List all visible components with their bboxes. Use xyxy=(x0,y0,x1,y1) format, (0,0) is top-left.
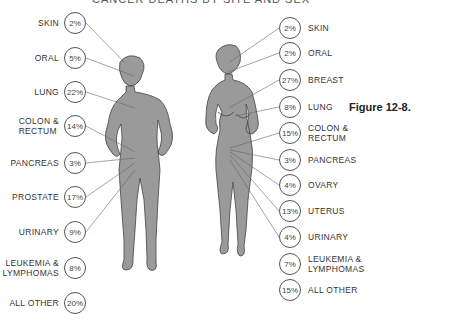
female-lung-label: LUNG xyxy=(308,102,333,112)
male-pancreas-label: PANCREAS xyxy=(10,158,59,168)
female-leukemia-pct: 7% xyxy=(279,253,301,275)
male-colon-pct: 14% xyxy=(64,115,86,137)
female-pancreas-pct: 3% xyxy=(279,149,301,171)
male-lung-pct: 22% xyxy=(64,81,86,103)
figure-caption: Figure 12-8. xyxy=(349,101,411,113)
female-other-label: ALL OTHER xyxy=(308,285,358,295)
male-oral-label: ORAL xyxy=(35,53,59,63)
male-prostate-label: PROSTATE xyxy=(12,192,59,202)
female-lung-pct: 8% xyxy=(279,96,301,118)
female-uterus-label: UTERUS xyxy=(308,206,345,216)
female-pancreas-label: PANCREAS xyxy=(308,155,357,165)
male-oral-pct: 5% xyxy=(64,47,86,69)
female-breast-label: BREAST xyxy=(308,75,344,85)
female-urinary-label: URINARY xyxy=(308,232,348,242)
male-colon-label: COLON & RECTUM xyxy=(19,116,59,136)
male-leukemia-label: LEUKEMIA & LYMPHOMAS xyxy=(3,258,59,278)
male-urinary-pct: 9% xyxy=(64,221,86,243)
female-oral-label: ORAL xyxy=(308,48,332,58)
female-uterus-pct: 13% xyxy=(279,200,301,222)
male-skin-label: SKIN xyxy=(38,18,59,28)
male-pancreas-pct: 3% xyxy=(64,152,86,174)
female-ovary-pct: 4% xyxy=(279,174,301,196)
male-urinary-label: URINARY xyxy=(19,227,59,237)
female-colon-pct: 15% xyxy=(279,122,301,144)
female-oral-pct: 2% xyxy=(279,42,301,64)
female-urinary-pct: 4% xyxy=(279,226,301,248)
female-ovary-label: OVARY xyxy=(308,180,338,190)
male-leukemia-pct: 8% xyxy=(64,257,86,279)
female-leukemia-label: LEUKEMIA & LYMPHOMAS xyxy=(308,254,364,274)
male-prostate-pct: 17% xyxy=(64,186,86,208)
male-skin-pct: 2% xyxy=(64,12,86,34)
female-colon-label: COLON & RECTUM xyxy=(308,123,348,143)
male-lung-label: LUNG xyxy=(34,87,59,97)
female-skin-pct: 2% xyxy=(279,17,301,39)
female-skin-label: SKIN xyxy=(308,23,329,33)
female-other-pct: 15% xyxy=(279,279,301,301)
male-figure xyxy=(105,56,172,271)
female-breast-pct: 27% xyxy=(279,69,301,91)
male-other-label: ALL OTHER xyxy=(9,298,59,308)
male-other-pct: 20% xyxy=(64,292,86,314)
